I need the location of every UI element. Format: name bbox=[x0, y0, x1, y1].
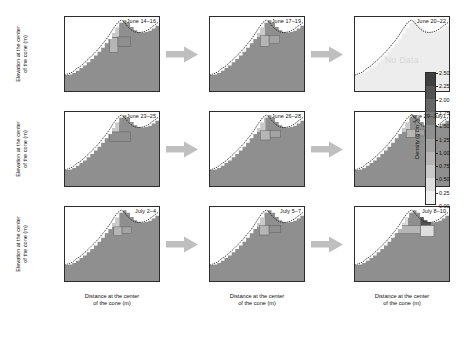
colorbar-segment bbox=[426, 152, 435, 165]
x-tick-mark bbox=[365, 16, 366, 17]
x-axis-title-line1: Distance at the center bbox=[375, 293, 429, 300]
y-axis-title: Elevation at the centerof the cone (m) bbox=[15, 121, 28, 177]
x-tick-mark bbox=[384, 111, 385, 112]
flow-arrow bbox=[166, 236, 199, 253]
y-tick-mark bbox=[209, 36, 210, 37]
colorbar-tick-mark bbox=[435, 179, 438, 180]
y-tick-mark bbox=[354, 239, 355, 240]
y-tick-mark bbox=[354, 264, 355, 265]
x-tick-mark bbox=[403, 111, 404, 112]
y-tick-mark bbox=[64, 144, 65, 145]
y-tick-mark bbox=[209, 251, 210, 252]
y-tick-mark bbox=[64, 36, 65, 37]
y-tick-mark bbox=[354, 131, 355, 132]
y-tick-mark bbox=[209, 144, 210, 145]
panel-8[interactable]: July 5–7-253-69116301486 bbox=[209, 206, 305, 282]
colorbar-tick-label: 2.50 bbox=[439, 70, 450, 76]
y-tick-mark bbox=[354, 36, 355, 37]
panel-title: June 17–19 bbox=[272, 18, 301, 24]
x-tick-mark bbox=[365, 111, 366, 112]
y-tick-mark bbox=[209, 49, 210, 50]
flow-arrow bbox=[166, 141, 199, 158]
y-tick-mark bbox=[64, 239, 65, 240]
flow-arrow bbox=[311, 46, 344, 63]
panel-title: June 26–28 bbox=[272, 113, 301, 119]
y-tick-mark bbox=[354, 87, 355, 88]
y-tick-mark bbox=[64, 23, 65, 24]
colorbar-tick-label: 1.00 bbox=[439, 150, 450, 156]
y-tick-mark bbox=[64, 131, 65, 132]
x-tick-mark bbox=[258, 111, 259, 112]
panel-5[interactable]: June 26–28 bbox=[209, 111, 305, 187]
x-axis-title: Distance at the centerof the cone (m) bbox=[375, 293, 429, 306]
y-axis-title-line1: Elevation at the center bbox=[15, 121, 22, 177]
x-tick-mark bbox=[422, 111, 423, 112]
panel-title: July 2–4 bbox=[135, 208, 156, 214]
colorbar-tick-mark bbox=[435, 153, 438, 154]
x-tick-mark bbox=[94, 111, 95, 112]
y-tick-mark bbox=[354, 156, 355, 157]
y-axis-title-line2: of the cone (m) bbox=[22, 121, 29, 177]
colorbar-tick-mark bbox=[435, 126, 438, 127]
panel-title: July 8–10 bbox=[422, 208, 446, 214]
x-tick-mark bbox=[277, 16, 278, 17]
colorbar-segment bbox=[426, 86, 435, 99]
y-tick-mark bbox=[209, 131, 210, 132]
x-tick-mark bbox=[365, 206, 366, 207]
y-tick-mark bbox=[64, 264, 65, 265]
x-tick-mark bbox=[75, 206, 76, 207]
y-tick-mark bbox=[209, 118, 210, 119]
colorbar-title-text: Density (g cm bbox=[414, 124, 420, 158]
flow-arrow bbox=[311, 141, 344, 158]
y-tick-mark bbox=[64, 169, 65, 170]
x-tick-mark bbox=[296, 111, 297, 112]
x-tick-mark bbox=[75, 16, 76, 17]
x-tick-mark bbox=[132, 111, 133, 112]
panel-plot-area bbox=[65, 112, 159, 186]
x-tick-mark bbox=[239, 206, 240, 207]
y-tick-mark bbox=[64, 156, 65, 157]
x-tick-mark bbox=[220, 206, 221, 207]
y-tick-mark bbox=[354, 182, 355, 183]
panel-plot-area bbox=[210, 17, 304, 91]
panel-1[interactable]: June 14–16572482390298206114 bbox=[64, 16, 160, 92]
panel-7[interactable]: July 2–4572482390298206114-253-691163014… bbox=[64, 206, 160, 282]
panel-plot-area bbox=[355, 207, 449, 281]
panel-9[interactable]: July 8–10-253-69116301486 bbox=[354, 206, 450, 282]
y-tick-mark bbox=[64, 182, 65, 183]
colorbar-segment bbox=[426, 99, 435, 112]
panel-4[interactable]: June 23–25572482390298206114 bbox=[64, 111, 160, 187]
y-tick-mark bbox=[209, 169, 210, 170]
colorbar-segment bbox=[426, 165, 435, 178]
y-tick-mark bbox=[209, 61, 210, 62]
colorbar-tick-mark bbox=[435, 73, 438, 74]
no-data-label: No Data bbox=[355, 55, 449, 65]
panel-2[interactable]: June 17–19 bbox=[209, 16, 305, 92]
colorbar-tick-label: 0.50 bbox=[439, 176, 450, 182]
y-axis-title-line2: of the cone (m) bbox=[22, 216, 29, 272]
x-tick-mark bbox=[258, 206, 259, 207]
y-tick-mark bbox=[354, 49, 355, 50]
y-tick-mark bbox=[64, 277, 65, 278]
y-tick-mark bbox=[64, 251, 65, 252]
colorbar-segment bbox=[426, 178, 435, 191]
colorbar-tick-label: 0.25 bbox=[439, 190, 450, 196]
x-axis-title-line1: Distance at the center bbox=[230, 293, 284, 300]
x-tick-mark bbox=[132, 16, 133, 17]
x-tick-mark bbox=[277, 111, 278, 112]
y-tick-mark bbox=[64, 87, 65, 88]
colorbar-segment bbox=[426, 125, 435, 138]
x-tick-mark bbox=[403, 16, 404, 17]
density-figure: June 14–16572482390298206114June 17–19Ju… bbox=[0, 0, 470, 341]
x-axis-title: Distance at the centerof the cone (m) bbox=[230, 293, 284, 306]
y-tick-mark bbox=[354, 169, 355, 170]
colorbar-title: Density (g cm-3) bbox=[412, 119, 420, 159]
panel-title: June 20–22 bbox=[417, 18, 446, 24]
x-tick-mark bbox=[422, 206, 423, 207]
colorbar-segment bbox=[426, 73, 435, 86]
y-axis-title: Elevation at the centerof the cone (m) bbox=[15, 216, 28, 272]
y-tick-mark bbox=[209, 213, 210, 214]
x-tick-mark bbox=[277, 206, 278, 207]
colorbar[interactable]: 2.502.252.001.751.501.251.000.750.500.25… bbox=[425, 72, 436, 205]
y-tick-mark bbox=[64, 49, 65, 50]
